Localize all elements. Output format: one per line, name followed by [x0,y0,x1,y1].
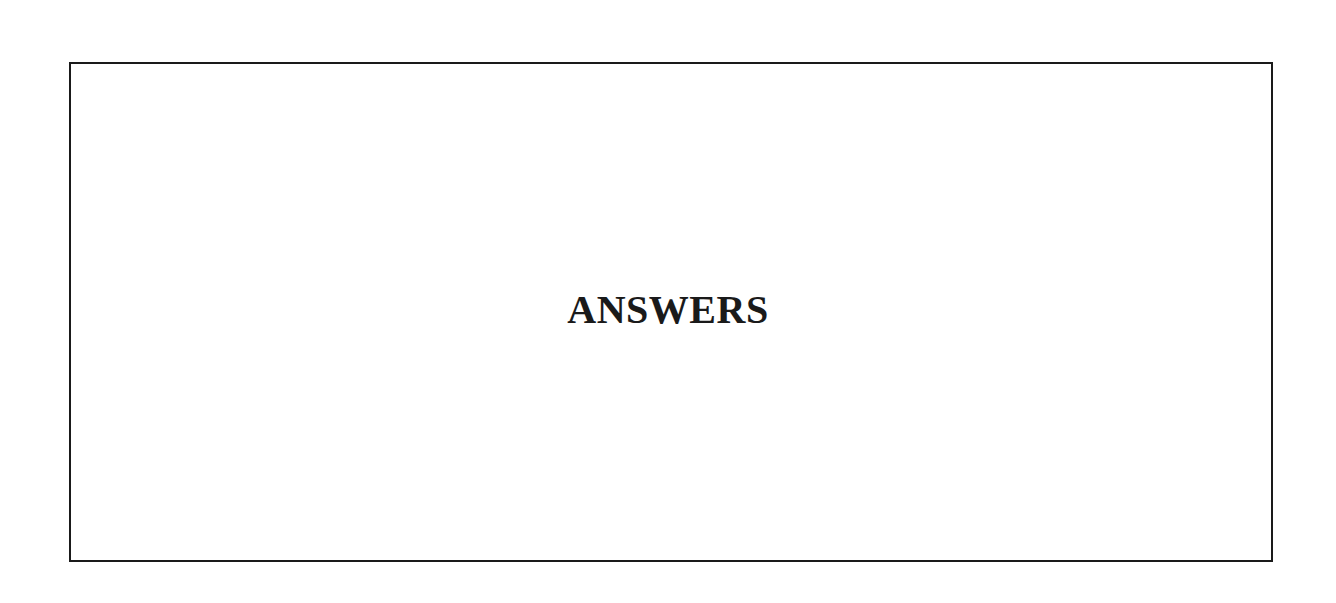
page-heading: ANSWERS [0,285,1336,335]
